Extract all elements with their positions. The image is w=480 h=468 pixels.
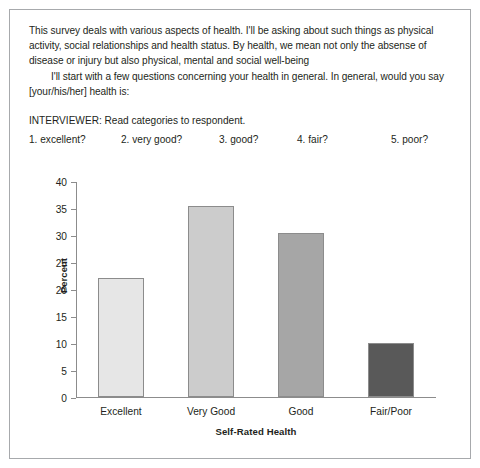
response-option-4: 4. fair? [297,134,328,145]
bar-excellent [98,278,144,397]
y-axis-tick [71,371,76,372]
y-axis-tick-label: 0 [61,393,67,404]
response-option-2: 2. very good? [121,134,182,145]
response-option-3: 3. good? [219,134,258,145]
y-axis-tick [71,317,76,318]
survey-paragraph-2: I'll start with a few questions concerni… [29,69,461,99]
y-axis-tick [71,398,76,399]
x-axis-category-label: Very Good [159,406,263,417]
y-axis-tick-label: 20 [56,285,67,296]
survey-chart-page: This survey deals with various aspects o… [0,0,480,468]
y-axis-tick-label: 35 [56,204,67,215]
interviewer-instruction: INTERVIEWER: Read categories to responde… [29,99,461,128]
survey-paragraph-1: This survey deals with various aspects o… [29,23,461,69]
x-axis-title: Self-Rated Health [76,426,436,437]
self-rated-health-bar-chart: Percent 0510152025303540ExcellentVery Go… [29,174,453,446]
response-options-list: 1. excellent? 2. very good? 3. good? 4. … [29,134,461,150]
y-axis-tick-label: 25 [56,258,67,269]
y-axis-tick [71,209,76,210]
y-axis-tick-label: 30 [56,231,67,242]
bar-fair-poor [368,343,414,397]
survey-text-block: This survey deals with various aspects o… [29,23,461,150]
response-option-1: 1. excellent? [29,134,86,145]
x-axis-category-label: Excellent [69,406,173,417]
response-option-5: 5. poor? [391,134,428,145]
y-axis-tick [71,290,76,291]
content-frame: This survey deals with various aspects o… [9,9,471,459]
x-axis-line [76,397,436,398]
y-axis-tick-label: 40 [56,177,67,188]
x-axis-category-label: Good [249,406,353,417]
y-axis-tick-label: 10 [56,339,67,350]
y-axis-tick [71,344,76,345]
y-axis-tick [71,236,76,237]
y-axis-line [76,182,77,398]
y-axis-tick-label: 5 [61,366,67,377]
bar-very-good [188,206,234,397]
x-axis-category-label: Fair/Poor [339,406,443,417]
y-axis-title: Percent [58,236,69,316]
y-axis-tick [71,263,76,264]
plot-area: 0510152025303540ExcellentVery GoodGoodFa… [76,182,436,398]
bar-good [278,233,324,397]
y-axis-tick-label: 15 [56,312,67,323]
y-axis-tick [71,182,76,183]
